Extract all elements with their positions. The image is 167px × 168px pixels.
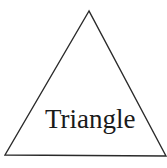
triangle-label: Triangle [45, 104, 136, 134]
triangle-shape [5, 11, 166, 156]
triangle-diagram: Triangle [0, 0, 167, 168]
